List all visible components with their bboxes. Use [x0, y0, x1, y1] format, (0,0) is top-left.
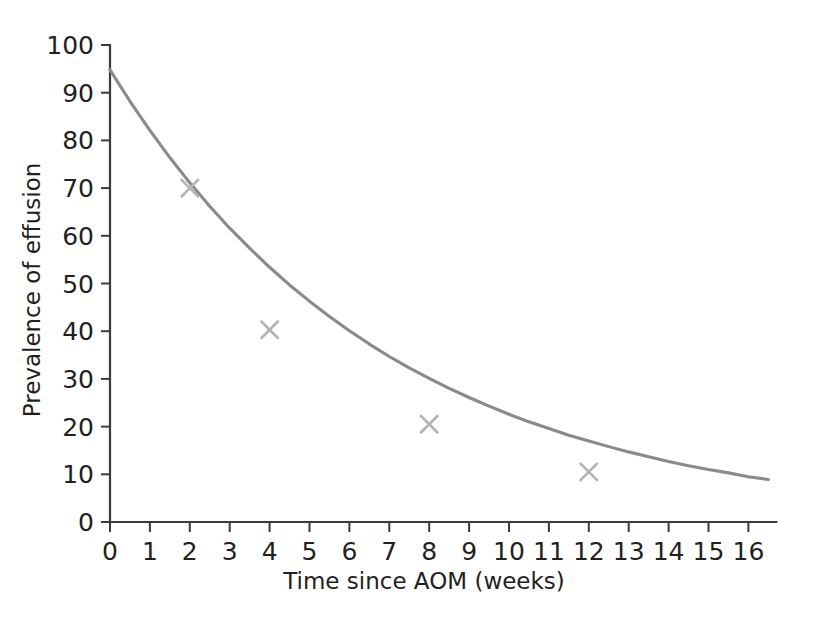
x-axis-tick-label: 3: [222, 537, 238, 566]
x-axis-tick-label: 10: [493, 537, 525, 566]
y-axis-title: Prevalence of effusion: [19, 163, 45, 418]
x-axis-tick-label: 7: [381, 537, 397, 566]
y-axis-tick-label: 90: [62, 79, 94, 108]
chart-plot-svg: 0102030405060708090100 01234567891011121…: [0, 0, 815, 625]
data-point-marker: [261, 321, 279, 339]
x-axis-tick-label: 9: [461, 537, 477, 566]
y-axis-tick-label: 20: [62, 413, 94, 442]
x-axis-title: Time since AOM (weeks): [282, 568, 565, 594]
y-axis-tick-label: 50: [62, 270, 94, 299]
x-axis-tick-label: 11: [533, 537, 565, 566]
data-point-marker: [580, 463, 598, 481]
series-observed-data-points: [181, 179, 598, 481]
x-axis-tick-label: 4: [262, 537, 278, 566]
x-axis-tick-label: 12: [573, 537, 605, 566]
x-axis-tick-label: 8: [421, 537, 437, 566]
y-axis-tick-label: 70: [62, 174, 94, 203]
y-axis-tick-label: 100: [46, 31, 94, 60]
decay-curve-path: [110, 70, 768, 480]
x-axis-tick-label: 15: [693, 537, 725, 566]
y-axis-tick-label: 0: [78, 508, 94, 537]
x-axis-tick-label: 2: [182, 537, 198, 566]
y-axis-tick-label: 30: [62, 365, 94, 394]
x-axis-tick-label: 16: [732, 537, 764, 566]
x-axis-tick-label: 0: [102, 537, 118, 566]
x-axis-tick-label: 1: [142, 537, 158, 566]
y-axis-tick-label: 60: [62, 222, 94, 251]
data-point-marker: [420, 415, 438, 433]
x-axis-tick-label: 13: [613, 537, 645, 566]
y-axis-tick-label: 40: [62, 317, 94, 346]
y-axis-tick-label: 10: [62, 460, 94, 489]
x-axis: 012345678910111213141516: [102, 522, 776, 566]
x-axis-tick-label: 6: [341, 537, 357, 566]
x-axis-tick-label: 14: [653, 537, 685, 566]
y-axis: 0102030405060708090100: [46, 31, 110, 537]
series-fitted-decay-curve: [110, 70, 768, 480]
y-axis-tick-label: 80: [62, 126, 94, 155]
chart-container: 0102030405060708090100 01234567891011121…: [0, 0, 815, 625]
x-axis-tick-label: 5: [302, 537, 318, 566]
